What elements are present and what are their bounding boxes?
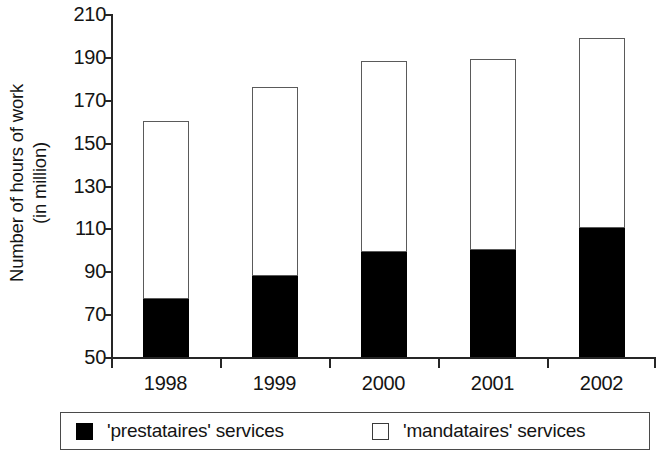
legend-item-prestataires[interactable]: 'prestataires' services [76,413,284,449]
x-axis-tick-label-1998: 1998 [111,372,221,394]
y-axis-title-line-2: (in million) [28,84,51,282]
x-axis-tick-label-2002: 2002 [547,372,657,394]
legend-item-mandataires[interactable]: 'mandataires' services [372,413,585,449]
y-axis-tick-label: 210 [58,4,106,24]
y-axis-tick-mark [104,143,112,145]
x-axis-tick-mark [654,359,656,368]
bar-segment-mandataires [470,59,516,250]
x-axis-tick-mark [547,359,549,368]
x-axis-tick-mark [438,359,440,368]
y-axis-tick-mark [104,186,112,188]
plot-area: 19981999200020012002 [111,14,656,358]
y-axis-title-line-1: Number of hours of work [5,84,28,282]
y-axis-tick-mark [104,314,112,316]
y-axis-tick-label: 110 [58,218,106,238]
chart-legend: 'prestataires' services'mandataires' ser… [60,412,650,450]
bar-segment-mandataires [143,121,189,299]
y-axis-tick-mark [104,228,112,230]
y-axis-tick-mark [104,100,112,102]
legend-swatch-hollow-icon [372,423,389,440]
bar-segment-prestataires [470,250,516,357]
legend-swatch-filled-icon [76,423,93,440]
y-axis-tick-mark [104,57,112,59]
y-axis-tick-label: 50 [58,347,106,367]
legend-label: 'mandataires' services [403,421,585,441]
x-axis-line [111,357,656,359]
y-axis-tick-label: 150 [58,133,106,153]
bar-segment-prestataires [579,228,625,357]
x-axis-tick-label-1999: 1999 [220,372,330,394]
bar-segment-mandataires [579,38,625,229]
y-axis-tick-label: 130 [58,176,106,196]
bar-2000 [361,61,407,357]
bar-2002 [579,38,625,357]
bar-segment-prestataires [143,299,189,357]
y-axis-tick-label: 70 [58,304,106,324]
bar-segment-prestataires [361,252,407,357]
bar-segment-mandataires [361,61,407,252]
y-axis-title: Number of hours of work (in million) [0,0,56,365]
y-axis-tick-mark [104,14,112,16]
y-axis-tick-labels: 210190170150130110907050 [58,0,106,380]
x-axis-tick-label-2001: 2001 [438,372,548,394]
x-axis-tick-mark [220,359,222,368]
bar-1998 [143,121,189,357]
y-axis-tick-label: 170 [58,90,106,110]
x-axis-tick-mark [329,359,331,368]
legend-label: 'prestataires' services [107,421,284,441]
y-axis-tick-label: 190 [58,47,106,67]
bar-segment-mandataires [252,87,298,276]
x-axis-tick-label-2000: 2000 [329,372,439,394]
stacked-bar-chart: Number of hours of work (in million) 210… [0,0,667,455]
x-axis-tick-mark [111,359,113,368]
bar-1999 [252,87,298,357]
bar-2001 [470,59,516,357]
bar-segment-prestataires [252,276,298,357]
y-axis-tick-mark [104,271,112,273]
y-axis-tick-label: 90 [58,261,106,281]
